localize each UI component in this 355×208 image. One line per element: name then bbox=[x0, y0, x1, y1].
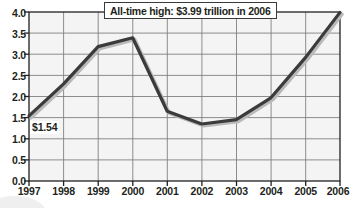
y-axis-ticks bbox=[24, 12, 29, 181]
line-chart: 4.0 3.5 3.0 2.5 2.0 1.5 1.0 0.5 0.0 bbox=[0, 0, 355, 208]
callout-text: All-time high: $3.99 trillion in 2006 bbox=[110, 5, 271, 17]
all-time-high-callout: All-time high: $3.99 trillion in 2006 bbox=[104, 2, 277, 19]
x-axis-tick-labels: 1997 1998 1999 2000 2001 2002 2003 2004 … bbox=[0, 186, 355, 204]
first-point-value-label: $1.54 bbox=[30, 121, 59, 134]
plot-area bbox=[0, 0, 355, 208]
x-axis-tick-label: 2006 bbox=[317, 186, 355, 197]
